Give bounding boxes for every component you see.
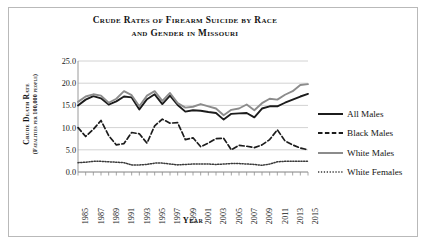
y-axis-title: Crude Death Rate (Fatalities per 100,000… bbox=[22, 48, 40, 180]
chart-title-line-2: and Gender in Missouri bbox=[50, 27, 320, 40]
chart-title: Crude Rates of Firearm Suicide by Race a… bbox=[50, 14, 320, 39]
legend-label: White Females bbox=[347, 167, 402, 177]
legend-swatch-icon bbox=[318, 167, 343, 177]
legend-label: All Males bbox=[347, 109, 384, 119]
y-axis-tick-label: 10.0 bbox=[62, 123, 76, 132]
y-axis-tick-labels: 0.05.010.015.020.025.0 bbox=[50, 54, 76, 179]
legend-item-black-males[interactable]: Black Males bbox=[318, 124, 422, 144]
legend-item-white-females[interactable]: White Females bbox=[318, 163, 422, 183]
x-axis-tick-labels: 1985198719891991199319951997199920012003… bbox=[78, 176, 308, 216]
legend-label: White Males bbox=[347, 148, 394, 158]
legend-item-white-males[interactable]: White Males bbox=[318, 143, 422, 163]
legend-item-all-males[interactable]: All Males bbox=[318, 104, 422, 124]
chart-legend: All MalesBlack MalesWhite MalesWhite Fem… bbox=[318, 104, 422, 182]
y-axis-tick-label: 20.0 bbox=[62, 79, 76, 88]
figure-container: Crude Rates of Firearm Suicide by Race a… bbox=[0, 0, 428, 252]
legend-swatch-icon bbox=[318, 109, 343, 119]
chart-title-line-1: Crude Rates of Firearm Suicide by Race bbox=[93, 15, 278, 25]
x-axis-title: Year bbox=[78, 216, 308, 225]
y-axis-tick-label: 25.0 bbox=[62, 57, 76, 66]
legend-swatch-icon bbox=[318, 128, 343, 138]
y-axis-tick-label: 5.0 bbox=[66, 145, 76, 154]
plot-area bbox=[78, 61, 308, 172]
y-axis-title-main: Crude Death Rate bbox=[22, 83, 31, 144]
y-axis-tick-label: 15.0 bbox=[62, 101, 76, 110]
legend-swatch-icon bbox=[318, 148, 343, 158]
series-line-white-females bbox=[78, 161, 308, 165]
y-axis-title-units: (Fatalities per 100,000 people) bbox=[31, 74, 40, 154]
series-line-black-males bbox=[78, 119, 308, 150]
x-axis-tick-label: 2015 bbox=[311, 208, 320, 224]
legend-label: Black Males bbox=[347, 128, 393, 138]
y-axis-tick-label: 0.0 bbox=[66, 168, 76, 177]
chart-svg bbox=[78, 61, 308, 172]
